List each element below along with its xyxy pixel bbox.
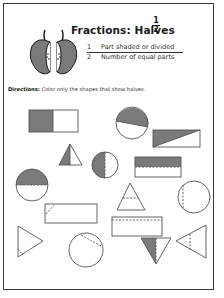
legend-number: 2 xyxy=(87,53,101,62)
shape-rectangle-vertical-half[interactable] xyxy=(29,110,78,132)
directions: Directions: Color only the shapes that s… xyxy=(8,86,145,92)
shape-circle-vertical-half[interactable] xyxy=(92,152,118,178)
fraction-legend: 1 Part shaded or divided 2 Number of equ… xyxy=(87,43,183,61)
legend-number: 1 xyxy=(87,43,101,52)
shape-rectangle-diagonal[interactable] xyxy=(153,130,200,147)
legend-row-numerator: 1 Part shaded or divided xyxy=(87,43,183,53)
shape-circle-horizontal-half[interactable] xyxy=(16,169,48,201)
shape-triangle-left-vertical-dashed[interactable] xyxy=(176,225,206,258)
legend-text: Number of equal parts xyxy=(101,53,174,62)
apple-halves-icon xyxy=(30,30,77,74)
shape-circle-chord-dashed[interactable] xyxy=(69,233,103,267)
title-fraction-denominator: 2 xyxy=(153,25,159,34)
shape-circle-diagonal[interactable] xyxy=(116,107,148,139)
legend-text: Part shaded or divided xyxy=(101,43,174,52)
directions-text: Color only the shapes that show halves. xyxy=(40,86,145,92)
shape-triangle-horizontal-dashed[interactable] xyxy=(117,183,145,210)
shape-rectangle-corner-dashed[interactable] xyxy=(45,204,97,223)
title-fraction: 1 2 xyxy=(151,17,161,34)
shape-triangle-inverted-half[interactable] xyxy=(141,238,171,264)
directions-label: Directions: xyxy=(8,86,40,92)
title-fraction-numerator: 1 xyxy=(153,16,159,25)
legend-row-denominator: 2 Number of equal parts xyxy=(87,53,183,62)
shape-circle-vertical-unequal[interactable] xyxy=(178,181,210,213)
shape-rectangle-top-dashed[interactable] xyxy=(112,217,162,236)
shape-rectangle-horizontal-half[interactable] xyxy=(135,157,181,177)
shape-triangle-vertical-half[interactable] xyxy=(59,144,82,165)
shape-triangle-corner-dashed[interactable] xyxy=(18,226,43,257)
